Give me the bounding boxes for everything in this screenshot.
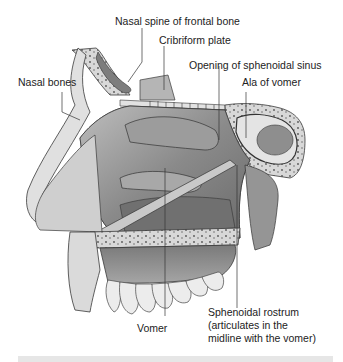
label-sphenoidal-opening: Opening of sphenoidal sinus (189, 59, 322, 72)
label-sphenoidal-rostrum: Sphenoidal rostrum (208, 306, 299, 319)
label-vomer: Vomer (137, 322, 167, 335)
label-nasal-bones: Nasal bones (18, 76, 76, 89)
caption-bar (18, 356, 333, 362)
label-cribriform-plate: Cribriform plate (159, 34, 231, 47)
maxilla (68, 232, 100, 312)
label-nasal-spine: Nasal spine of frontal bone (115, 15, 240, 28)
label-rostrum-note-1: (articulates in the (208, 319, 288, 332)
label-ala-of-vomer: Ala of vomer (242, 76, 301, 89)
pterygoid-plate (245, 165, 278, 250)
label-rostrum-note-2: midline with the vomer) (208, 332, 316, 345)
